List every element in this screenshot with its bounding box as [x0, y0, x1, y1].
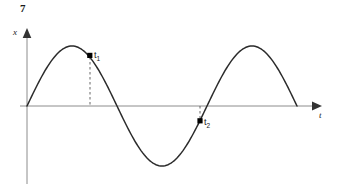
t2-marker-dot — [197, 118, 202, 123]
time-axis-group — [20, 102, 322, 111]
time-axis-label: t — [319, 110, 322, 120]
sine-wave-figure: 7 x t t1 t2 — [0, 0, 338, 186]
t1-marker-dot — [87, 53, 92, 58]
displacement-axis-label: x — [13, 27, 17, 37]
point-t1-label: t1 — [94, 50, 100, 62]
point-t2-label-subscript: 2 — [207, 122, 211, 129]
displacement-axis-arrow-icon — [23, 28, 32, 38]
point-t2-label: t2 — [204, 117, 210, 129]
point-t1-label-subscript: 1 — [97, 55, 101, 62]
figure-canvas — [0, 0, 338, 186]
marker-t2-group — [197, 106, 202, 123]
